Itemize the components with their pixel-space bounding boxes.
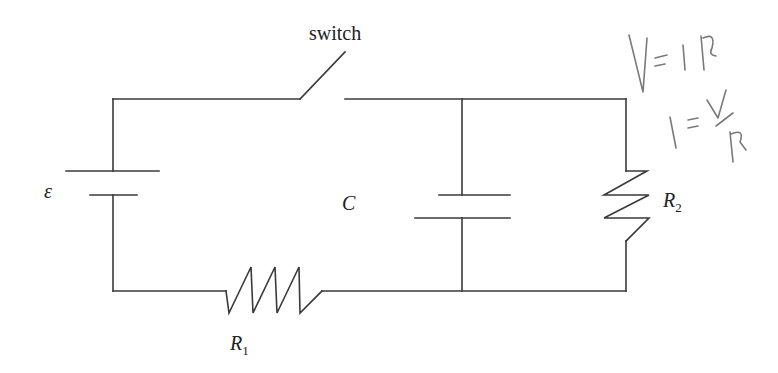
circuit-diagram: ε switch R1 C R2 bbox=[0, 0, 778, 373]
capacitor bbox=[415, 99, 510, 291]
resistor-2 bbox=[604, 99, 649, 291]
switch bbox=[113, 52, 626, 99]
switch-label: switch bbox=[309, 22, 361, 44]
r2-label: R2 bbox=[662, 189, 682, 215]
r1-label: R1 bbox=[229, 332, 249, 358]
handwritten-note-ivr bbox=[670, 90, 746, 162]
handwritten-note-vir bbox=[629, 35, 716, 92]
battery bbox=[66, 99, 159, 291]
resistor-1 bbox=[113, 267, 626, 313]
emf-label: ε bbox=[44, 180, 52, 202]
capacitor-label: C bbox=[342, 192, 356, 214]
